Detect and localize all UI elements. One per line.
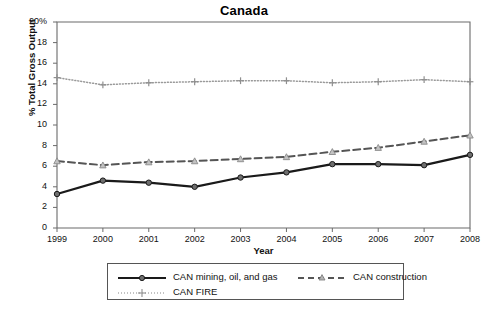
data-point [284,170,289,175]
data-point [192,184,197,189]
data-point [283,77,290,84]
data-point [54,74,61,81]
x-tick-label: 2008 [450,234,488,244]
x-tick-label: 2003 [221,234,261,244]
x-tick-label: 2001 [129,234,169,244]
data-point [54,191,59,196]
y-tick-label: 18 [17,37,47,47]
series-line-0 [57,155,470,194]
y-tick-label: 8 [17,140,47,150]
data-point [100,178,105,183]
data-point [145,79,152,86]
legend-label-fire: CAN FIRE [173,286,217,297]
y-tick-label: 10 [17,119,47,129]
data-point [191,78,198,85]
chart-figure: Canada % Total Gross Output Year 0246810… [0,0,488,311]
data-point [375,78,382,85]
legend-swatch-dashed-triangle-icon [296,270,348,282]
series-line-1 [57,135,470,165]
y-tick-label: 2 [17,201,47,211]
y-tick-label: 14 [17,78,47,88]
data-point [237,77,244,84]
y-tick-label: 4 [17,181,47,191]
y-tick-label: 12 [17,98,47,108]
data-point [330,161,335,166]
data-point [99,81,106,88]
data-point [329,79,336,86]
x-tick-label: 2007 [404,234,444,244]
y-tick-label: 20% [17,16,47,26]
legend-swatch-solid-circle-icon [116,270,168,282]
data-point [467,78,474,85]
legend-swatch-dotted-plus-icon [116,285,168,297]
series-line-2 [57,78,470,85]
legend-item-1: CAN construction [296,269,427,283]
x-tick-label: 2005 [312,234,352,244]
legend-label-construction: CAN construction [353,271,427,282]
x-tick-label: 2006 [358,234,398,244]
legend-item-0: CAN mining, oil, and gas [116,269,278,283]
x-tick-label: 2004 [266,234,306,244]
legend-label-mining: CAN mining, oil, and gas [173,271,278,282]
data-point [421,76,428,83]
x-tick-label: 1999 [37,234,77,244]
data-point [238,175,243,180]
y-tick-label: 0 [17,222,47,232]
data-point [376,161,381,166]
y-tick-label: 16 [17,57,47,67]
x-tick-label: 2002 [175,234,215,244]
chart-legend: CAN mining, oil, and gas CAN constructio… [107,263,404,300]
data-point [467,152,472,157]
x-tick-label: 2000 [83,234,123,244]
data-point [146,180,151,185]
y-tick-label: 6 [17,160,47,170]
data-point [421,162,426,167]
legend-item-2: CAN FIRE [116,284,217,298]
